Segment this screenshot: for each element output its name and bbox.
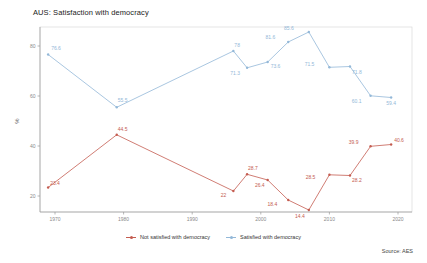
data-point bbox=[246, 67, 248, 69]
data-point bbox=[287, 41, 289, 43]
y-tick-label: 80 bbox=[30, 43, 36, 49]
x-tick-label: 1970 bbox=[49, 216, 60, 222]
line-chart: 19701980199020002010202020406080%23.444.… bbox=[0, 0, 427, 233]
satisfied-marker-icon bbox=[226, 235, 236, 240]
legend-label-satisfied: Satisfied with democracy bbox=[240, 234, 301, 240]
data-point bbox=[328, 66, 330, 68]
data-label: 76.6 bbox=[51, 45, 61, 51]
data-label: 14.4 bbox=[295, 213, 305, 219]
data-label: 71.3 bbox=[230, 70, 240, 76]
data-label: 18.4 bbox=[268, 201, 278, 207]
data-point bbox=[308, 31, 310, 33]
data-point bbox=[369, 95, 371, 97]
not-satisfied-with-democracy-line bbox=[48, 135, 391, 210]
data-label: 73.6 bbox=[271, 63, 281, 69]
x-tick-label: 2020 bbox=[392, 216, 403, 222]
data-label: 28.7 bbox=[248, 165, 258, 171]
data-label: 71.8 bbox=[352, 69, 362, 75]
data-label: 71.5 bbox=[305, 61, 315, 67]
y-tick-label: 20 bbox=[30, 193, 36, 199]
legend-item-not-satisfied: Not satisfied with democracy bbox=[126, 234, 210, 240]
data-point bbox=[287, 199, 289, 201]
data-label: 40.6 bbox=[394, 137, 404, 143]
x-tick-label: 2010 bbox=[324, 216, 335, 222]
data-point bbox=[266, 179, 268, 181]
not-satisfied-marker-icon bbox=[126, 235, 136, 240]
data-label: 28.2 bbox=[352, 177, 362, 183]
y-tick-label: 60 bbox=[30, 93, 36, 99]
data-point bbox=[349, 65, 351, 67]
y-axis-label: % bbox=[14, 118, 20, 124]
y-tick-label: 40 bbox=[30, 143, 36, 149]
chart-legend: Not satisfied with democracy Satisfied w… bbox=[0, 234, 427, 240]
legend-item-satisfied: Satisfied with democracy bbox=[226, 234, 301, 240]
data-label: 22 bbox=[221, 192, 227, 198]
data-point bbox=[390, 143, 392, 145]
data-label: 81.6 bbox=[266, 34, 276, 40]
x-tick-label: 1990 bbox=[187, 216, 198, 222]
data-point bbox=[390, 96, 392, 98]
data-label: 26.4 bbox=[255, 182, 265, 188]
x-tick-label: 1980 bbox=[118, 216, 129, 222]
data-label: 60.1 bbox=[352, 98, 362, 104]
data-label: 85.6 bbox=[284, 25, 294, 31]
data-label: 78 bbox=[234, 42, 240, 48]
data-point bbox=[328, 174, 330, 176]
data-point bbox=[369, 145, 371, 147]
data-point bbox=[232, 190, 234, 192]
data-label: 59.4 bbox=[386, 100, 396, 106]
source-note: Source: AES bbox=[382, 248, 413, 254]
data-point bbox=[47, 53, 49, 55]
data-point bbox=[308, 209, 310, 211]
data-label: 55.5 bbox=[118, 97, 128, 103]
data-point bbox=[232, 50, 234, 52]
data-label: 28.5 bbox=[306, 174, 316, 180]
data-point bbox=[116, 106, 118, 108]
x-tick-label: 2000 bbox=[255, 216, 266, 222]
data-point bbox=[47, 186, 49, 188]
data-point bbox=[349, 174, 351, 176]
data-point bbox=[266, 61, 268, 63]
data-point bbox=[116, 134, 118, 136]
data-label: 23.4 bbox=[50, 180, 60, 186]
satisfied-with-democracy-line bbox=[48, 32, 391, 107]
data-point bbox=[246, 173, 248, 175]
data-label: 39.9 bbox=[349, 139, 359, 145]
data-label: 44.5 bbox=[118, 126, 128, 132]
legend-label-not-satisfied: Not satisfied with democracy bbox=[140, 234, 210, 240]
